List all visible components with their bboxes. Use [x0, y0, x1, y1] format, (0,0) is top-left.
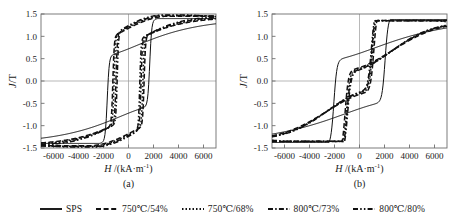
legend-item-800℃/80%[interactable]: 800℃/80% [353, 203, 425, 214]
x-axis-label: H /(kA·m-1) [334, 162, 383, 175]
svg-text:1.5: 1.5 [26, 9, 38, 19]
legend-item-750℃/54%[interactable]: 750℃/54% [96, 203, 168, 214]
svg-text:-1.5: -1.5 [254, 143, 269, 153]
legend-swatch-icon [182, 204, 204, 214]
svg-text:0.0: 0.0 [257, 76, 269, 86]
y-axis-label: J/T [238, 73, 249, 88]
svg-text:6000: 6000 [426, 151, 445, 161]
panel-a: -6000-4000-20000200040006000-1.5-1.0-0.5… [0, 0, 232, 190]
legend-item-label: 750℃/54% [122, 203, 168, 214]
svg-text:-2000: -2000 [93, 151, 114, 161]
y-axis-label: J/T [7, 73, 18, 88]
svg-text:4000: 4000 [170, 151, 189, 161]
legend-item-label: 800℃/80% [379, 203, 425, 214]
legend-item-750℃/68%[interactable]: 750℃/68% [182, 203, 254, 214]
svg-text:2000: 2000 [145, 151, 164, 161]
svg-text:0: 0 [126, 151, 131, 161]
svg-text:-0.5: -0.5 [254, 99, 269, 109]
legend-row: SPS750℃/54%750℃/68%800℃/73%800℃/80% [0, 190, 465, 223]
panel-a-plot: -6000-4000-20000200040006000-1.5-1.0-0.5… [0, 0, 232, 190]
svg-text:-1.0: -1.0 [23, 121, 38, 131]
svg-text:-6000: -6000 [274, 151, 295, 161]
svg-text:1.5: 1.5 [257, 9, 269, 19]
legend-swatch-icon [268, 204, 290, 214]
legend-item-label: 800℃/73% [294, 203, 340, 214]
legend-item-800℃/73%[interactable]: 800℃/73% [268, 203, 340, 214]
legend-swatch-icon [40, 204, 62, 214]
svg-text:-2000: -2000 [324, 151, 345, 161]
panel-caption: (b) [354, 178, 366, 190]
svg-text:-1.5: -1.5 [23, 143, 38, 153]
panel-b-plot: -6000-4000-20000200040006000-1.5-1.0-0.5… [231, 0, 463, 190]
panel-b: -6000-4000-20000200040006000-1.5-1.0-0.5… [231, 0, 463, 190]
legend-swatch-icon [96, 204, 118, 214]
svg-text:0.0: 0.0 [26, 76, 38, 86]
legend-item-label: SPS [66, 204, 82, 214]
hysteresis-figure: -6000-4000-20000200040006000-1.5-1.0-0.5… [0, 0, 465, 223]
svg-text:4000: 4000 [401, 151, 420, 161]
svg-text:1.0: 1.0 [257, 32, 269, 42]
legend: SPS750℃/54%750℃/68%800℃/73%800℃/80% [0, 190, 465, 223]
panels-container: -6000-4000-20000200040006000-1.5-1.0-0.5… [0, 0, 465, 190]
svg-text:1.0: 1.0 [26, 32, 38, 42]
svg-text:6000: 6000 [195, 151, 214, 161]
legend-item-label: 750℃/68% [208, 203, 254, 214]
x-axis-label: H /(kA·m-1) [103, 162, 152, 175]
svg-text:0.5: 0.5 [26, 54, 38, 64]
svg-text:-6000: -6000 [43, 151, 64, 161]
svg-text:0.5: 0.5 [257, 54, 269, 64]
svg-text:-4000: -4000 [299, 151, 320, 161]
svg-text:-0.5: -0.5 [23, 99, 38, 109]
legend-item-SPS[interactable]: SPS [40, 204, 82, 214]
legend-swatch-icon [353, 204, 375, 214]
svg-text:-4000: -4000 [68, 151, 89, 161]
svg-text:-1.0: -1.0 [254, 121, 269, 131]
panel-caption: (a) [123, 178, 134, 190]
svg-text:2000: 2000 [376, 151, 395, 161]
svg-text:0: 0 [357, 151, 362, 161]
